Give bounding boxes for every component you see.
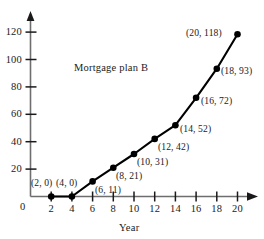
data-point bbox=[193, 95, 200, 102]
y-tick-label-20: 20 bbox=[0, 164, 22, 175]
point-label-6-11: (6, 11) bbox=[95, 185, 121, 195]
data-point bbox=[172, 122, 179, 129]
y-tick-label-120: 120 bbox=[0, 27, 22, 38]
point-label-20-118: (20, 118) bbox=[186, 28, 222, 38]
point-label-18-93: (18, 93) bbox=[221, 66, 252, 76]
point-label-12-42: (12, 42) bbox=[158, 142, 189, 152]
x-axis-title: Year bbox=[119, 223, 140, 234]
x-tick-label-16: 16 bbox=[186, 204, 206, 215]
y-tick-label-60: 60 bbox=[0, 109, 22, 120]
x-tick-label-18: 18 bbox=[207, 204, 227, 215]
origin-label: 0 bbox=[15, 202, 30, 213]
chart-figure: 20 40 60 80 100 120 0 2 4 6 8 10 12 14 1… bbox=[0, 0, 264, 239]
y-tick-label-40: 40 bbox=[0, 137, 22, 148]
x-tick-label-20: 20 bbox=[228, 204, 248, 215]
point-label-16-72: (16, 72) bbox=[201, 96, 232, 106]
data-point bbox=[48, 193, 55, 200]
point-label-2-0: (2, 0) bbox=[31, 178, 52, 188]
x-tick-label-4: 4 bbox=[62, 204, 82, 215]
data-line-mortgage-plan-b bbox=[51, 34, 237, 196]
x-tick-label-2: 2 bbox=[41, 204, 61, 215]
point-label-8-21: (8, 21) bbox=[116, 171, 142, 181]
point-label-10-31: (10, 31) bbox=[137, 157, 168, 167]
data-point bbox=[214, 65, 221, 72]
point-label-4-0: (4, 0) bbox=[56, 178, 77, 188]
data-markers bbox=[48, 31, 241, 200]
x-tick-label-8: 8 bbox=[103, 204, 123, 215]
y-tick-label-80: 80 bbox=[0, 82, 22, 93]
x-tick-label-10: 10 bbox=[124, 204, 144, 215]
y-tick-label-100: 100 bbox=[0, 55, 22, 66]
series-title: Mortgage plan B bbox=[74, 63, 148, 74]
data-point bbox=[234, 31, 241, 38]
data-point bbox=[151, 136, 158, 143]
x-tick-label-12: 12 bbox=[145, 204, 165, 215]
x-tick-label-6: 6 bbox=[83, 204, 103, 215]
point-label-14-52: (14, 52) bbox=[180, 124, 211, 134]
x-tick-label-14: 14 bbox=[165, 204, 185, 215]
data-point bbox=[69, 193, 76, 200]
